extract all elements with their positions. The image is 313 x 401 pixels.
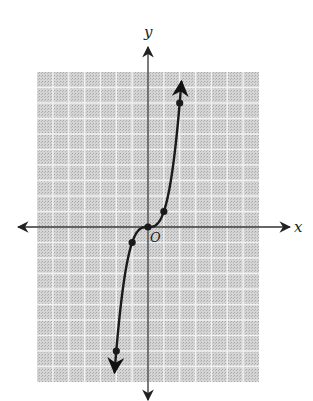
- data-point: [129, 239, 136, 246]
- y-axis-label: y: [143, 23, 153, 41]
- data-point: [176, 99, 183, 106]
- origin-label: O: [150, 230, 161, 245]
- x-axis-label: x: [294, 218, 303, 236]
- data-point: [160, 208, 167, 215]
- data-point: [113, 347, 120, 354]
- cubic-function-graph: y x O: [0, 0, 313, 401]
